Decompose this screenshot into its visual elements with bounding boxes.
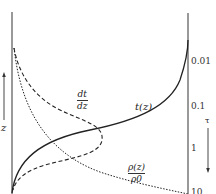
rho-z-curve xyxy=(14,48,188,194)
rho-z-numerator: ρ(z) xyxy=(128,163,145,172)
diagram-canvas xyxy=(0,0,216,194)
tick-1: 1 xyxy=(191,144,197,153)
t-z-curve xyxy=(12,40,188,193)
rho-z-label: ρ(z) ρ0 xyxy=(128,163,145,184)
dt-dz-numerator: dt xyxy=(78,90,87,99)
rho-z-denominator: ρ0 xyxy=(131,175,142,184)
t-z-label: t(z) xyxy=(135,102,152,112)
z-axis-label: z xyxy=(1,123,6,133)
dt-dz-curve xyxy=(13,48,102,190)
tau-arrow-icon xyxy=(206,128,210,173)
tick-0-01: 0.01 xyxy=(191,57,211,66)
dt-dz-label: dt dz xyxy=(77,90,88,111)
dt-dz-denominator: dz xyxy=(77,102,88,111)
z-arrow-icon xyxy=(2,72,6,120)
tick-0-1: 0.1 xyxy=(191,102,205,111)
tick-10: 10 xyxy=(191,188,202,194)
tau-axis-label: τ xyxy=(205,117,209,125)
